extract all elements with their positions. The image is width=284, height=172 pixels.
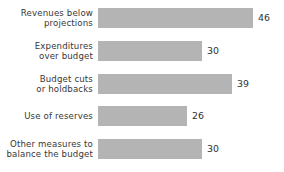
- bar-track: 26: [98, 106, 204, 126]
- bar-value-label: 26: [192, 106, 204, 126]
- bar-value-label: 39: [237, 74, 249, 94]
- bar-category-label: Other measures to balance the budget: [0, 139, 93, 160]
- bar-fill: [98, 41, 202, 61]
- bar-category-label: Revenues below projections: [0, 8, 93, 29]
- horizontal-bar-chart: Revenues below projections 46 Expenditur…: [0, 0, 284, 172]
- bar-category-label: Expenditures over budget: [0, 41, 93, 62]
- bar-category-label: Budget cuts or holdbacks: [0, 74, 93, 95]
- bar-row: Budget cuts or holdbacks 39: [0, 74, 284, 94]
- bar-track: 46: [98, 8, 270, 28]
- bar-fill: [98, 74, 232, 94]
- bar-value-label: 46: [258, 8, 270, 28]
- bar-row: Expenditures over budget 30: [0, 41, 284, 61]
- bar-value-label: 30: [207, 139, 219, 159]
- bar-track: 30: [98, 139, 219, 159]
- bar-fill: [98, 139, 202, 159]
- bar-value-label: 30: [207, 41, 219, 61]
- bar-track: 39: [98, 74, 249, 94]
- bar-fill: [98, 8, 253, 28]
- bar-category-label: Use of reserves: [0, 111, 93, 121]
- bar-row: Revenues below projections 46: [0, 8, 284, 28]
- bar-row: Other measures to balance the budget 30: [0, 139, 284, 159]
- bar-row: Use of reserves 26: [0, 106, 284, 126]
- bar-track: 30: [98, 41, 219, 61]
- bar-fill: [98, 106, 187, 126]
